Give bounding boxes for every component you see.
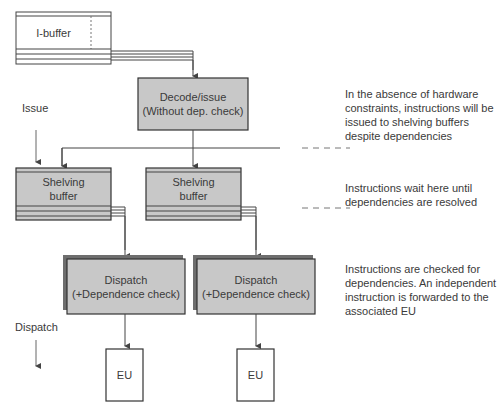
decode-issue-subtitle: (Without dep. check): [143, 104, 244, 118]
shelving-right-line2: buffer: [180, 189, 208, 203]
shelving-right-line1: Shelving: [172, 175, 214, 189]
shelving-buffer-right-node: Shelving buffer: [146, 172, 241, 206]
ibuffer-label: I-buffer: [16, 16, 91, 49]
ibuffer-text: I-buffer: [36, 26, 71, 40]
issue-annotation: In the absence of hardware constraints, …: [345, 87, 504, 143]
dispatch-left-line2: (+Dependence check): [72, 287, 180, 301]
decode-issue-title: Decode/issue: [160, 90, 227, 104]
dispatch-right-line2: (+Dependence check): [202, 287, 310, 301]
shelving-buffer-left-node: Shelving buffer: [16, 172, 111, 206]
dispatch-left-node: Dispatch (+Dependence check): [67, 259, 185, 314]
decode-issue-node: Decode/issue (Without dep. check): [138, 78, 248, 130]
dispatch-annotation: Instructions are checked for dependencie…: [345, 262, 504, 318]
shelving-annotation: Instructions wait here until dependencie…: [345, 181, 504, 209]
issue-stage-label: Issue: [22, 102, 48, 114]
dispatch-stage-label: Dispatch: [15, 321, 58, 333]
eu-right-node: EU: [237, 349, 274, 401]
eu-left-label: EU: [117, 368, 132, 382]
eu-left-node: EU: [106, 349, 143, 401]
eu-right-label: EU: [248, 368, 263, 382]
shelving-left-line1: Shelving: [42, 175, 84, 189]
shelving-left-line2: buffer: [50, 189, 78, 203]
dispatch-right-node: Dispatch (+Dependence check): [197, 259, 315, 314]
dispatch-left-line1: Dispatch: [105, 273, 148, 287]
dispatch-right-line1: Dispatch: [235, 273, 278, 287]
